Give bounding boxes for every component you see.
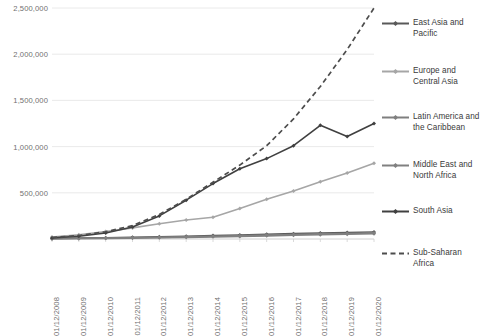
legend-label-line2: North Africa [413, 171, 472, 182]
x-tick-label: 01/12/2015 [240, 297, 249, 336]
legend-label-line1: Middle East and [413, 160, 472, 171]
legend-label-line2: Africa [413, 259, 462, 270]
legend-item[interactable]: South Asia [382, 206, 486, 217]
x-tick-label: 01/12/2013 [186, 297, 195, 336]
x-tick-label: 01/12/2017 [294, 297, 303, 336]
legend-label-line2: the Caribbean [413, 123, 479, 134]
data-point-marker [345, 171, 349, 175]
x-tick-label: 01/12/2018 [320, 297, 329, 336]
x-tick-label: 01/12/2019 [347, 297, 356, 336]
legend-label: Sub-SaharanAfrica [413, 248, 462, 269]
legend-item[interactable]: Latin America andthe Caribbean [382, 112, 486, 133]
y-tick-label: 2,000,000 [0, 50, 48, 59]
data-point-marker [372, 161, 376, 165]
y-tick-label: 1,000,000 [0, 142, 48, 151]
series-line [52, 163, 374, 237]
legend-label-line1: Europe and [413, 66, 458, 77]
y-tick-label: 1,500,000 [0, 96, 48, 105]
data-point-marker [157, 222, 161, 226]
data-point-marker [211, 215, 215, 219]
plot-svg [52, 8, 374, 239]
plot-area [52, 8, 374, 239]
legend-item[interactable]: East Asia andPacific [382, 18, 486, 39]
legend-swatch-icon [382, 161, 409, 170]
series-line [52, 8, 374, 238]
legend-label-line1: South Asia [413, 206, 453, 217]
y-tick-label: 2,500,000 [0, 4, 48, 13]
x-tick-label: 01/12/2020 [374, 297, 383, 336]
legend-swatch-icon [382, 207, 409, 216]
legend-label: South Asia [413, 206, 453, 217]
x-tick-label: 01/12/2012 [159, 297, 168, 336]
legend-label: East Asia andPacific [413, 18, 464, 39]
legend-label-line1: Latin America and [413, 112, 479, 123]
legend-swatch-icon [382, 67, 409, 76]
legend-label: Middle East andNorth Africa [413, 160, 472, 181]
y-axis: 2,500,0002,000,0001,500,0001,000,000500,… [0, 0, 48, 247]
data-point-marker [238, 207, 242, 211]
legend-label: Latin America andthe Caribbean [413, 112, 479, 133]
legend-swatch-icon [382, 249, 409, 258]
legend-item[interactable]: Middle East andNorth Africa [382, 160, 486, 181]
legend-label-line1: Sub-Saharan [413, 248, 462, 259]
data-point-marker [292, 189, 296, 193]
legend-swatch-icon [382, 113, 409, 122]
legend-swatch-icon [382, 19, 409, 28]
x-tick-label: 01/12/2009 [79, 297, 88, 336]
x-tick-label: 01/12/2008 [52, 297, 61, 336]
legend-item[interactable]: Sub-SaharanAfrica [382, 248, 486, 269]
data-point-marker [104, 236, 108, 240]
x-tick-label: 01/12/2014 [213, 297, 222, 336]
legend-label: Europe andCentral Asia [413, 66, 458, 87]
data-point-marker [265, 197, 269, 201]
legend-label-line2: Pacific [413, 29, 464, 40]
legend-label-line1: East Asia and [413, 18, 464, 29]
legend-item[interactable]: Europe andCentral Asia [382, 66, 486, 87]
y-tick-label: 500,000 [0, 188, 48, 197]
data-point-marker [184, 218, 188, 222]
legend-label-line2: Central Asia [413, 77, 458, 88]
x-axis: 01/12/200801/12/200901/12/201001/12/2011… [52, 243, 374, 301]
x-tick-label: 01/12/2016 [267, 297, 276, 336]
data-point-marker [318, 180, 322, 184]
x-tick-label: 01/12/2011 [133, 297, 142, 335]
x-tick-label: 01/12/2010 [106, 297, 115, 336]
